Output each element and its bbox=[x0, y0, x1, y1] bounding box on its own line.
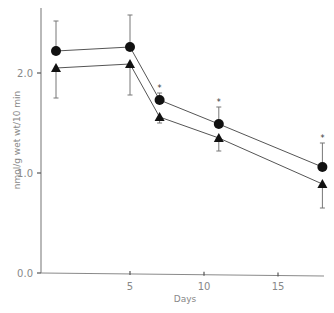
x-axis bbox=[41, 273, 324, 276]
circle-marker bbox=[51, 46, 61, 56]
circle-marker bbox=[125, 42, 135, 52]
triangle-marker bbox=[125, 59, 135, 68]
y-axis-label: nmol/g wet wt/10 min bbox=[12, 91, 22, 190]
circle-marker bbox=[155, 95, 165, 105]
series-line-circle bbox=[56, 47, 322, 167]
triangle-marker bbox=[317, 179, 327, 188]
circle-marker bbox=[317, 162, 327, 172]
x-tick-label: 10 bbox=[198, 281, 211, 292]
significance-asterisk: * bbox=[158, 84, 162, 93]
series-layer: *** bbox=[51, 15, 327, 208]
significance-asterisk: * bbox=[320, 134, 324, 143]
y-tick-label: 2.0 bbox=[17, 68, 33, 79]
x-tick-label: 15 bbox=[272, 281, 285, 292]
x-tick-label: 5 bbox=[127, 281, 133, 292]
y-tick-label: 0.0 bbox=[17, 268, 33, 279]
series-line-triangle bbox=[56, 64, 322, 184]
line-chart: 0.01.02.051015 *** Days nmol/g wet wt/10… bbox=[0, 0, 334, 313]
circle-marker bbox=[214, 119, 224, 129]
triangle-marker bbox=[214, 133, 224, 142]
x-axis-label: Days bbox=[174, 294, 197, 304]
triangle-marker bbox=[155, 112, 165, 121]
significance-asterisk: * bbox=[217, 98, 221, 107]
